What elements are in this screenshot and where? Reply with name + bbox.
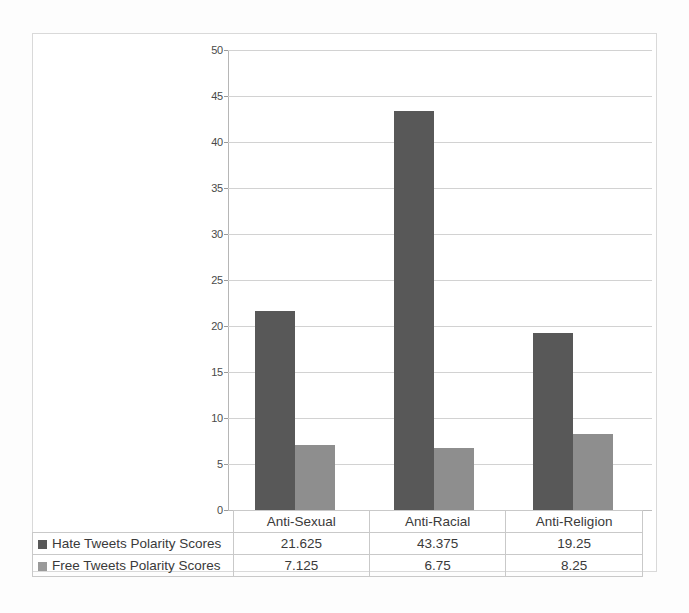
table-row: Free Tweets Polarity Scores 7.125 6.75 8…: [33, 555, 643, 577]
table-row-categories: Anti-Sexual Anti-Racial Anti-Religion: [33, 511, 643, 533]
category-header-anti-religion: Anti-Religion: [506, 511, 643, 533]
y-tick-label-45: 45: [183, 90, 223, 102]
bar-group-anti-sexual: [255, 50, 335, 510]
category-header-anti-racial: Anti-Racial: [369, 511, 505, 533]
bar-hate-anti-racial[interactable]: [394, 111, 434, 510]
legend-label-hate: Hate Tweets Polarity Scores: [52, 536, 221, 551]
bar-hate-anti-sexual[interactable]: [255, 311, 295, 510]
data-table: Anti-Sexual Anti-Racial Anti-Religion Ha…: [32, 510, 643, 577]
legend-swatch-hate-icon: [38, 540, 47, 549]
value-free-anti-racial: 6.75: [369, 555, 505, 577]
plot-area: [228, 50, 652, 510]
legend-label-free: Free Tweets Polarity Scores: [52, 558, 221, 573]
y-tick-label-50: 50: [183, 44, 223, 56]
bar-group-anti-racial: [394, 50, 474, 510]
y-tick-label-40: 40: [183, 136, 223, 148]
y-tick-label-25: 25: [183, 274, 223, 286]
table-corner-blank: [33, 511, 234, 533]
y-tick-label-30: 30: [183, 228, 223, 240]
value-free-anti-sexual: 7.125: [233, 555, 369, 577]
legend-item-free: Free Tweets Polarity Scores: [33, 555, 234, 577]
y-tick-label-15: 15: [183, 366, 223, 378]
bar-free-anti-racial[interactable]: [434, 448, 474, 510]
bar-free-anti-religion[interactable]: [573, 434, 613, 510]
value-hate-anti-sexual: 21.625: [233, 533, 369, 555]
category-header-anti-sexual: Anti-Sexual: [233, 511, 369, 533]
value-free-anti-religion: 8.25: [506, 555, 643, 577]
legend-item-hate: Hate Tweets Polarity Scores: [33, 533, 234, 555]
bar-group-anti-religion: [533, 50, 613, 510]
y-tick-label-10: 10: [183, 412, 223, 424]
value-hate-anti-racial: 43.375: [369, 533, 505, 555]
table-row: Hate Tweets Polarity Scores 21.625 43.37…: [33, 533, 643, 555]
value-hate-anti-religion: 19.25: [506, 533, 643, 555]
y-tick-label-20: 20: [183, 320, 223, 332]
bar-free-anti-sexual[interactable]: [295, 445, 335, 511]
bar-hate-anti-religion[interactable]: [533, 333, 573, 510]
y-tick-label-35: 35: [183, 182, 223, 194]
legend-swatch-free-icon: [38, 562, 47, 571]
y-tick-label-5: 5: [183, 458, 223, 470]
